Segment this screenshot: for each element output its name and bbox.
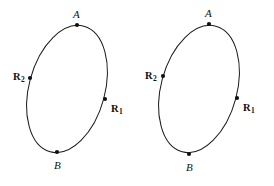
left-label-R1: R1 — [111, 104, 123, 116]
left-point-A-marker — [75, 23, 79, 27]
left-label-R1-subscript: 1 — [119, 107, 123, 116]
left-label-B: B — [54, 160, 61, 171]
right-label-R1-subscript: 1 — [251, 106, 255, 115]
right-point-R1-marker — [235, 96, 239, 100]
right-ellipse-outline — [145, 16, 252, 161]
left-label-R2-subscript: 2 — [21, 75, 25, 84]
left-ellipse-outline — [13, 16, 120, 161]
left-ellipse-group — [13, 16, 120, 161]
left-label-A: A — [73, 9, 80, 20]
left-label-R2: R2 — [13, 72, 25, 84]
right-label-R2: R2 — [145, 71, 157, 83]
right-ellipse-group — [145, 16, 252, 161]
right-point-A-marker — [207, 22, 211, 26]
left-point-R1-marker — [103, 97, 107, 101]
right-point-R2-marker — [161, 74, 165, 78]
right-point-B-marker — [187, 152, 191, 156]
right-label-R2-subscript: 2 — [153, 74, 157, 83]
left-point-B-marker — [55, 150, 59, 154]
figure-canvas — [0, 0, 274, 186]
right-label-A: A — [205, 8, 212, 19]
left-point-R2-marker — [28, 76, 32, 80]
right-label-R1: R1 — [243, 103, 255, 115]
right-label-B: B — [186, 162, 193, 173]
